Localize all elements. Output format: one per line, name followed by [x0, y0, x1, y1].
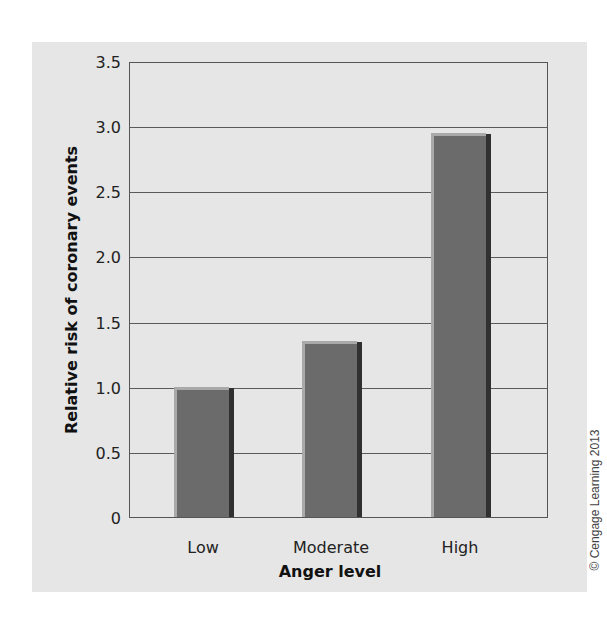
- y-tick-label: 0: [61, 509, 121, 528]
- x-axis-label: Anger level: [279, 562, 382, 581]
- y-tick-label: 3.0: [61, 118, 121, 137]
- gridline: [130, 127, 547, 128]
- y-tick-label: 3.5: [61, 53, 121, 72]
- y-axis-label: Relative risk of coronary events: [62, 146, 81, 434]
- copyright-credit: © Cengage Learning 2013: [588, 430, 602, 571]
- bar-low: [174, 387, 234, 517]
- plot-area: [129, 62, 548, 518]
- x-tick-label: High: [442, 538, 479, 557]
- x-tick-label: Low: [187, 538, 219, 557]
- y-tick-label: 0.5: [61, 443, 121, 462]
- x-tick-label: Moderate: [293, 538, 369, 557]
- bar-moderate: [302, 341, 362, 517]
- bar-high: [431, 133, 491, 517]
